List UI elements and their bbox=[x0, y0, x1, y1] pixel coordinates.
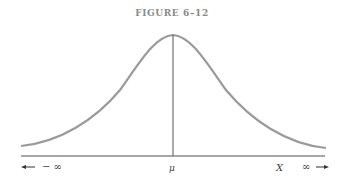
right-arrow-icon bbox=[316, 165, 329, 169]
normal-distribution-diagram: − ∞ μ X ∞ bbox=[0, 0, 344, 179]
pos-infinity-label: ∞ bbox=[302, 161, 310, 172]
neg-infinity-label: − ∞ bbox=[42, 161, 62, 172]
left-arrow-icon bbox=[21, 165, 35, 169]
mu-label: μ bbox=[169, 163, 175, 173]
x-label: X bbox=[275, 162, 284, 173]
